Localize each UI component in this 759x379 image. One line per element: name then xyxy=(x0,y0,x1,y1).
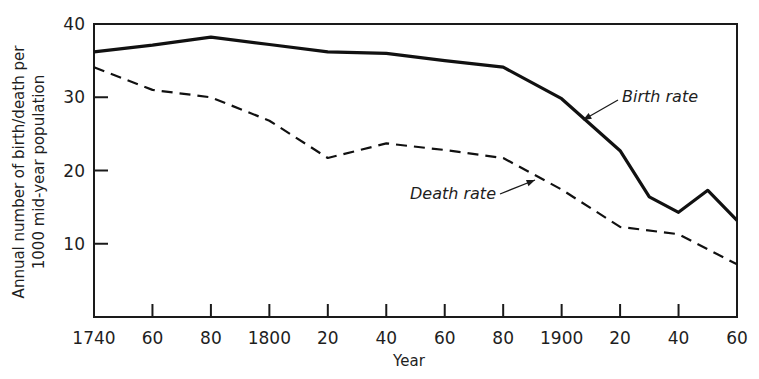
x-axis-ticks: 174060801800204060801900204060 xyxy=(72,304,747,348)
y-tick-label: 30 xyxy=(63,87,85,107)
x-tick-label: 80 xyxy=(200,328,222,348)
arrowhead-icon xyxy=(526,180,535,186)
birth-rate-annotation: Birth rate xyxy=(622,87,698,106)
x-tick-label: 60 xyxy=(726,328,748,348)
y-axis-title-line-2: 1000 mid-year population xyxy=(30,75,48,269)
y-tick-label: 10 xyxy=(63,234,85,254)
y-axis-title: Annual number of birth/death per 1000 mi… xyxy=(10,45,48,299)
x-axis-title: Year xyxy=(392,352,426,370)
x-tick-label: 1740 xyxy=(72,328,115,348)
x-tick-label: 80 xyxy=(492,328,514,348)
death-rate-annotation: Death rate xyxy=(410,184,496,203)
x-tick-label: 40 xyxy=(668,328,690,348)
x-tick-label: 1900 xyxy=(540,328,583,348)
plot-frame xyxy=(94,24,737,317)
arrowhead-icon xyxy=(583,113,592,120)
x-tick-label: 20 xyxy=(609,328,631,348)
x-tick-label: 1800 xyxy=(248,328,291,348)
y-tick-label: 40 xyxy=(63,14,85,34)
y-tick-label: 20 xyxy=(63,161,85,181)
y-axis-title-line-1: Annual number of birth/death per xyxy=(10,45,28,299)
series-layer xyxy=(94,37,737,264)
x-tick-label: 20 xyxy=(317,328,339,348)
x-tick-label: 40 xyxy=(375,328,397,348)
x-tick-label: 60 xyxy=(142,328,164,348)
x-tick-label: 60 xyxy=(434,328,456,348)
line-chart: Annual number of birth/death per 1000 mi… xyxy=(0,0,759,379)
